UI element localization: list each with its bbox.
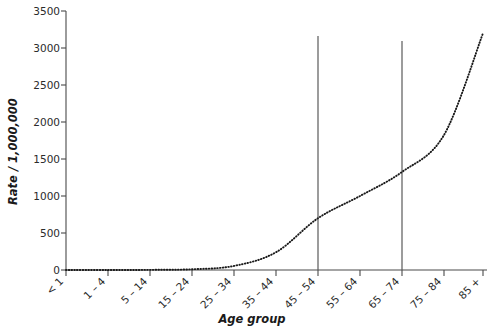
y-tick-label: 3000 xyxy=(33,42,60,54)
chart-canvas: Rate / 1,000,000 3500 3000 2500 2000 150… xyxy=(0,0,490,335)
y-tick-label: 1000 xyxy=(33,190,60,202)
y-tick-label: 500 xyxy=(40,227,60,239)
y-axis-title: Rate / 1,000,000 xyxy=(6,98,20,205)
y-tick-label: 1500 xyxy=(33,153,60,165)
x-axis-title: Age group xyxy=(217,312,285,326)
chart-background xyxy=(0,0,490,335)
chart-figure: Rate / 1,000,000 3500 3000 2500 2000 150… xyxy=(0,0,490,335)
y-tick-label: 2000 xyxy=(33,116,60,128)
y-tick-label: 0 xyxy=(53,264,60,276)
y-tick-label: 2500 xyxy=(33,79,60,91)
y-tick-label: 3500 xyxy=(33,5,60,17)
y-axis-title-group: Rate / 1,000,000 xyxy=(6,98,20,205)
